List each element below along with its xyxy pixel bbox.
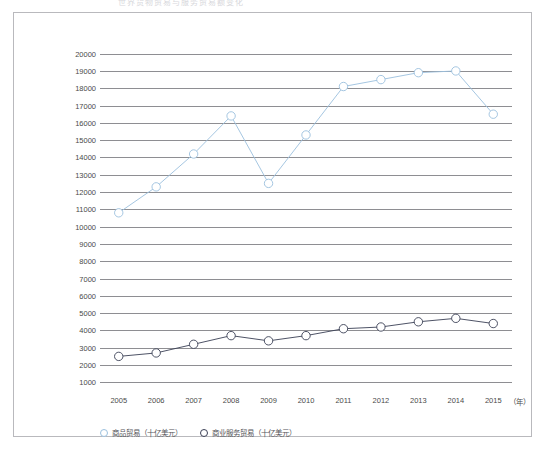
y-axis-tick-label: 7000 — [79, 274, 96, 283]
y-axis-tick-label: 4000 — [79, 326, 96, 335]
y-axis-tick-label: 15000 — [75, 136, 96, 145]
y-axis-tick-label: 16000 — [75, 118, 96, 127]
data-point-marker[interactable] — [189, 340, 197, 348]
x-axis-tick-label: 2006 — [148, 396, 165, 405]
data-point-marker[interactable] — [152, 183, 160, 191]
data-point-marker[interactable] — [377, 75, 385, 83]
x-axis-tick-label: 2008 — [223, 396, 240, 405]
y-axis-tick-label: 19000 — [75, 66, 96, 75]
y-axis-tick-label: 2000 — [79, 361, 96, 370]
data-point-marker[interactable] — [189, 150, 197, 158]
y-axis-tick-label: 18000 — [75, 84, 96, 93]
y-axis-tick-label: 3000 — [79, 343, 96, 352]
y-axis-tick-label: 17000 — [75, 101, 96, 110]
series-layer — [100, 45, 512, 391]
x-axis-tick-label: 2009 — [260, 396, 277, 405]
data-point-marker[interactable] — [377, 323, 385, 331]
data-point-marker[interactable] — [115, 209, 123, 217]
legend-circle-icon — [100, 429, 108, 437]
y-axis-tick-label: 10000 — [75, 222, 96, 231]
data-point-marker[interactable] — [264, 179, 272, 187]
y-axis-tick-label: 5000 — [79, 309, 96, 318]
series-line — [119, 71, 494, 213]
y-axis-labels: 1000200030004000500060007000800090001000… — [62, 45, 96, 391]
y-axis-tick-label: 9000 — [79, 239, 96, 248]
data-point-marker[interactable] — [152, 349, 160, 357]
data-point-marker[interactable] — [227, 331, 235, 339]
y-axis-tick-label: 6000 — [79, 291, 96, 300]
data-point-marker[interactable] — [227, 112, 235, 120]
page-title: 世界货物贸易与服务贸易额变化 — [118, 0, 244, 7]
data-point-marker[interactable] — [302, 131, 310, 139]
faint-title-strip: 世界货物贸易与服务贸易额变化 — [0, 0, 545, 11]
data-point-marker[interactable] — [115, 352, 123, 360]
y-axis-tick-label: 1000 — [79, 378, 96, 387]
data-point-marker[interactable] — [489, 319, 497, 327]
x-axis-labels: 2005200620072008200920102011201220132014… — [100, 396, 512, 412]
y-axis-tick-label: 11000 — [76, 205, 96, 214]
x-axis-unit-label: （年） — [509, 396, 530, 407]
x-axis-tick-label: 2014 — [447, 396, 464, 405]
data-point-marker[interactable] — [452, 67, 460, 75]
y-axis-tick-label: 12000 — [75, 188, 96, 197]
data-point-marker[interactable] — [414, 318, 422, 326]
x-axis-tick-label: 2007 — [185, 396, 202, 405]
legend-label: 商业服务贸易（十亿美元） — [212, 427, 296, 438]
x-axis-tick-label: 2015 — [485, 396, 502, 405]
y-axis-tick-label: 13000 — [75, 170, 96, 179]
data-point-marker[interactable] — [264, 337, 272, 345]
x-axis-tick-label: 2012 — [373, 396, 390, 405]
plot-area — [100, 45, 512, 391]
chart-card: 1000200030004000500060007000800090001000… — [13, 12, 532, 437]
data-point-marker[interactable] — [452, 314, 460, 322]
data-point-marker[interactable] — [414, 68, 422, 76]
legend-item[interactable]: 商业服务贸易（十亿美元） — [200, 427, 296, 438]
legend-label: 商品贸易（十亿美元） — [112, 427, 182, 438]
x-axis-tick-label: 2010 — [298, 396, 315, 405]
x-axis-tick-label: 2011 — [335, 396, 351, 405]
x-axis-tick-label: 2013 — [410, 396, 427, 405]
x-axis-tick-label: 2005 — [110, 396, 127, 405]
legend-item[interactable]: 商品贸易（十亿美元） — [100, 427, 182, 438]
data-point-marker[interactable] — [489, 110, 497, 118]
data-point-marker[interactable] — [339, 82, 347, 90]
y-axis-tick-label: 14000 — [75, 153, 96, 162]
legend-circle-icon — [200, 429, 208, 437]
y-axis-tick-label: 8000 — [79, 257, 96, 266]
data-point-marker[interactable] — [302, 331, 310, 339]
y-axis-tick-label: 20000 — [75, 49, 96, 58]
data-point-marker[interactable] — [339, 325, 347, 333]
